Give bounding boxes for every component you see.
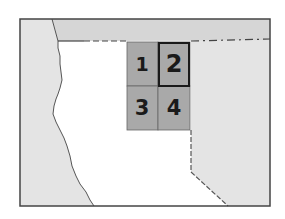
grid-cell-1-label: 1 [135,53,148,75]
grid-cell-3-label: 3 [135,96,150,120]
locator-map: 1 2 3 4 [0,0,285,219]
northern-neighbor-region [52,19,270,41]
grid-cell-2-label: 2 [166,50,183,78]
grid: 1 2 3 4 [127,42,190,130]
grid-cell-4-label: 4 [167,96,182,120]
